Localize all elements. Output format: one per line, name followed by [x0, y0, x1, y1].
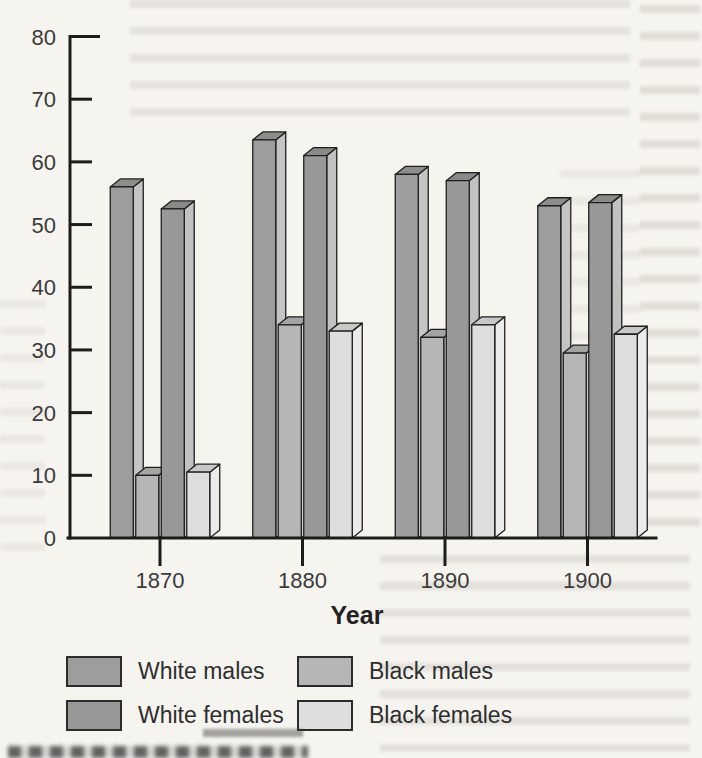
x-tick-label-1890: 1890 [421, 568, 470, 593]
legend-item-white-females-label: White females [138, 702, 284, 729]
y-tick-label-30: 30 [32, 338, 56, 363]
y-tick-label-50: 50 [32, 213, 56, 238]
black-males-bar-1870-front [136, 475, 159, 538]
black-females-bar-1900-front [614, 334, 637, 538]
y-tick-label-20: 20 [32, 401, 56, 426]
legend-item-white-males-swatch [66, 656, 122, 687]
x-axis-ticks: 1870188018901900 [136, 538, 612, 593]
legend-item-white-females-swatch [66, 700, 122, 731]
legend-item-black-males-swatch [297, 656, 353, 687]
legend-item-white-males-label: White males [138, 658, 265, 685]
legend-item-black-males-label: Black males [369, 658, 493, 685]
legend-item-white-females: White females [66, 699, 297, 731]
page-bleedthrough-smudge [203, 729, 303, 737]
y-tick-label-60: 60 [32, 150, 56, 175]
white-males-bar-1870-front [110, 187, 133, 538]
y-tick-label-0: 0 [44, 526, 56, 551]
y-tick-label-80: 80 [32, 25, 56, 50]
black-females-bar-1890-front [472, 325, 495, 538]
x-tick-label-1900: 1900 [563, 568, 612, 593]
y-tick-label-70: 70 [32, 87, 56, 112]
black-females-bar-1900-side [637, 326, 647, 538]
white-females-bar-1900-front [589, 203, 612, 538]
black-males-bar-1900-front [563, 353, 586, 538]
y-tick-label-10: 10 [32, 463, 56, 488]
legend-item-black-males: Black males [297, 655, 512, 687]
legend-item-white-males: White males [66, 655, 297, 687]
black-females-bar-1900 [614, 326, 647, 538]
white-females-bar-1880-front [304, 156, 327, 538]
black-females-bar-1880 [329, 323, 362, 538]
white-males-bar-1890-front [395, 174, 418, 538]
bar-series-group [110, 132, 647, 538]
x-tick-label-1870: 1870 [136, 568, 185, 593]
x-tick-label-1880: 1880 [278, 568, 327, 593]
white-females-bar-1890-front [446, 181, 469, 538]
black-females-bar-1880-front [329, 331, 352, 538]
y-axis-ticks: 01020304050607080 [32, 25, 100, 552]
y-tick-label-40: 40 [32, 275, 56, 300]
white-males-bar-1880-front [253, 140, 276, 538]
legend-item-black-females: Black females [297, 699, 512, 731]
legend-item-black-females-label: Black females [369, 702, 512, 729]
chart-legend: White malesBlack malesWhite femalesBlack… [66, 655, 512, 731]
black-females-bar-1870-side [210, 464, 220, 538]
white-females-bar-1870-front [161, 209, 184, 538]
black-females-bar-1890 [472, 317, 505, 538]
white-males-bar-1900-front [538, 206, 561, 538]
black-females-bar-1870-front [187, 472, 210, 538]
black-males-bar-1880-front [278, 325, 301, 538]
scanned-page: 01020304050607080 1870188018901900 Year … [0, 0, 702, 758]
black-females-bar-1870 [187, 464, 220, 538]
black-females-bar-1890-side [495, 317, 505, 538]
black-females-bar-1880-side [352, 323, 362, 538]
bar-chart: 01020304050607080 1870188018901900 Year [0, 0, 702, 640]
cropped-caption-smudge [8, 746, 308, 758]
legend-item-black-females-swatch [297, 700, 353, 731]
black-males-bar-1890-front [421, 337, 444, 538]
x-axis-title: Year [331, 601, 384, 629]
